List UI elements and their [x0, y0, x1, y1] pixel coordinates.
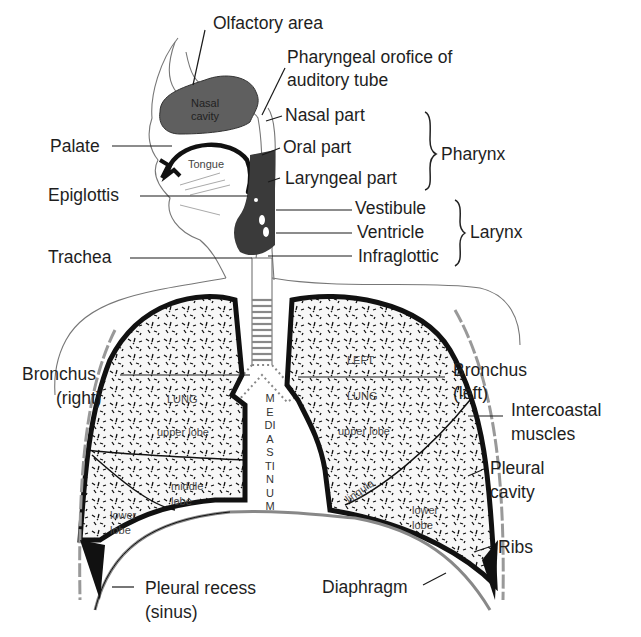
label-right-middle-lobe-line1: middle	[171, 480, 203, 493]
label-oral-part: Oral part	[283, 137, 351, 157]
label-nasal-part: Nasal part	[285, 105, 365, 125]
label-intercoastal-line2: muscles	[511, 424, 575, 444]
label-nasal-cavity-line2: cavity	[191, 110, 219, 123]
label-epiglottis: Epiglottis	[48, 185, 119, 205]
label-intercoastal-line1: Intercoastal	[511, 400, 601, 420]
label-left-left: LEFT	[347, 354, 374, 367]
label-ventricle: Ventricle	[357, 222, 424, 242]
label-ribs: Ribs	[498, 537, 533, 557]
label-laryngeal-part: Laryngeal part	[285, 168, 397, 188]
anatomy-drawing	[0, 0, 641, 637]
label-right-lower-lobe-line2: lobe	[110, 524, 131, 537]
label-right-lung: LUNG	[167, 393, 198, 406]
label-nasal-cavity-line1: Nasal	[191, 97, 219, 110]
label-left-lower-lobe-line2: lobe	[412, 519, 433, 532]
label-pharyngeal-orifice-line1: Pharyngeal orofice of	[287, 47, 452, 67]
right-lung-shape	[80, 297, 245, 540]
pharynx-dark	[234, 150, 275, 255]
label-right-lower-lobe-line1: lower	[110, 509, 136, 522]
label-pleural-recess-line2: (sinus)	[145, 602, 198, 622]
label-olfactory-area: Olfactory area	[213, 13, 323, 33]
larynx-brace	[455, 200, 465, 266]
label-pleural-cavity-line1: Pleural	[490, 458, 544, 478]
label-pleural-recess-line1: Pleural recess	[145, 578, 256, 598]
label-bronchus-left-line2: (left)	[453, 383, 488, 403]
label-pharyngeal-orifice-line2: auditory tube	[287, 70, 388, 90]
label-trachea: Trachea	[48, 247, 112, 267]
left-lung-shape	[287, 297, 495, 585]
label-pharynx: Pharynx	[441, 144, 505, 164]
label-pleural-cavity-line2: cavity	[490, 482, 535, 502]
label-diaphragm: Diaphragm	[322, 577, 408, 597]
label-bronchus-right-line1: Bronchus	[22, 364, 96, 384]
label-vestibule: Vestibule	[355, 198, 426, 218]
label-mediastinum: MEDIASTINUM	[264, 392, 276, 514]
label-tongue: Tongue	[188, 158, 224, 171]
label-bronchus-left-line1: Bronchus	[453, 360, 527, 380]
label-bronchus-right-line2: (right)	[56, 388, 102, 408]
label-right-upper-lobe: upper lobe	[157, 426, 209, 439]
label-left-lower-lobe-line1: lower	[412, 504, 438, 517]
label-right-middle-lobe-line2: lobe	[171, 495, 192, 508]
label-left-upper-lobe: upper lobe	[338, 425, 390, 438]
respiratory-diagram: Olfactory area Pharyngeal orofice of aud…	[0, 0, 641, 637]
label-infraglottic: Infraglottic	[358, 246, 439, 266]
label-left-lung: LUNG	[347, 390, 378, 403]
label-larynx: Larynx	[470, 222, 523, 242]
pharynx-brace	[425, 112, 436, 190]
label-palate: Palate	[50, 136, 100, 156]
